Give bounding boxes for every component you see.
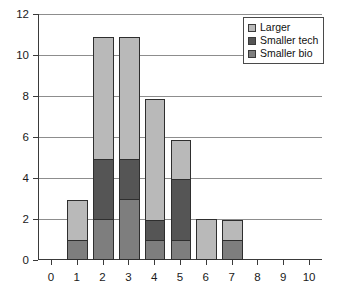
bar-segment-tech-4 bbox=[145, 220, 166, 241]
chart-legend: LargerSmaller techSmaller bio bbox=[243, 17, 324, 64]
bar-segment-bio-5 bbox=[171, 240, 192, 261]
y-tick-label-10: 10 bbox=[0, 50, 29, 62]
x-tick-2 bbox=[103, 260, 104, 265]
x-tick-label-2: 2 bbox=[99, 272, 105, 284]
y-tick-label-4: 4 bbox=[0, 173, 29, 185]
bar-group-5 bbox=[171, 136, 192, 259]
x-tick-7 bbox=[232, 260, 233, 265]
y-tick-label-2: 2 bbox=[0, 214, 29, 226]
y-tick-label-12: 12 bbox=[0, 9, 29, 21]
x-tick-8 bbox=[257, 260, 258, 265]
x-tick-10 bbox=[309, 260, 310, 265]
bar-group-1 bbox=[67, 198, 88, 260]
legend-swatch-bio bbox=[248, 50, 256, 58]
x-tick-label-6: 6 bbox=[203, 272, 209, 284]
bar-segment-bio-7 bbox=[222, 240, 243, 261]
bar-segment-larger-2 bbox=[93, 37, 114, 160]
x-tick-label-8: 8 bbox=[254, 272, 260, 284]
bar-segment-bio-4 bbox=[145, 240, 166, 261]
stacked-bar-chart: 024681012 012345678910 LargerSmaller tec… bbox=[0, 0, 338, 296]
bar-segment-larger-1 bbox=[67, 200, 88, 241]
bar-segment-larger-6 bbox=[196, 219, 217, 260]
bar-segment-larger-3 bbox=[119, 37, 140, 160]
y-tick-10 bbox=[33, 55, 38, 56]
bar-segment-tech-5 bbox=[171, 179, 192, 241]
bar-segment-bio-1 bbox=[67, 240, 88, 261]
bar-segment-bio-3 bbox=[119, 199, 140, 261]
x-tick-label-7: 7 bbox=[228, 272, 234, 284]
legend-label-tech: Smaller tech bbox=[260, 35, 318, 46]
y-tick-8 bbox=[33, 96, 38, 97]
x-tick-1 bbox=[77, 260, 78, 265]
y-tick-12 bbox=[33, 14, 38, 15]
y-tick-6 bbox=[33, 137, 38, 138]
bar-group-6 bbox=[196, 218, 217, 259]
y-tick-label-8: 8 bbox=[0, 91, 29, 103]
legend-label-bio: Smaller bio bbox=[260, 48, 313, 59]
y-tick-2 bbox=[33, 219, 38, 220]
x-tick-label-3: 3 bbox=[125, 272, 131, 284]
bar-segment-tech-2 bbox=[93, 159, 114, 221]
x-tick-label-1: 1 bbox=[74, 272, 80, 284]
bar-group-3 bbox=[119, 34, 140, 260]
bar-group-2 bbox=[93, 34, 114, 260]
legend-swatch-tech bbox=[248, 37, 256, 45]
bar-group-7 bbox=[222, 218, 243, 259]
y-tick-0 bbox=[33, 260, 38, 261]
x-tick-5 bbox=[180, 260, 181, 265]
y-tick-label-6: 6 bbox=[0, 132, 29, 144]
bar-segment-larger-7 bbox=[222, 220, 243, 241]
bar-group-4 bbox=[145, 95, 166, 259]
x-tick-4 bbox=[154, 260, 155, 265]
x-tick-label-10: 10 bbox=[303, 272, 316, 284]
x-tick-0 bbox=[51, 260, 52, 265]
x-tick-3 bbox=[128, 260, 129, 265]
legend-label-larger: Larger bbox=[260, 22, 290, 33]
legend-swatch-larger bbox=[248, 24, 256, 32]
x-tick-label-5: 5 bbox=[177, 272, 183, 284]
bar-segment-larger-5 bbox=[171, 140, 192, 181]
x-tick-label-0: 0 bbox=[48, 272, 54, 284]
legend-item-1: Smaller tech bbox=[248, 34, 318, 47]
bar-segment-tech-3 bbox=[119, 159, 140, 200]
bar-segment-larger-4 bbox=[145, 99, 166, 222]
y-tick-4 bbox=[33, 178, 38, 179]
x-tick-6 bbox=[206, 260, 207, 265]
y-tick-label-0: 0 bbox=[0, 255, 29, 267]
legend-item-2: Smaller bio bbox=[248, 47, 318, 60]
x-tick-9 bbox=[283, 260, 284, 265]
bar-segment-bio-2 bbox=[93, 219, 114, 260]
x-tick-label-9: 9 bbox=[280, 272, 286, 284]
legend-item-0: Larger bbox=[248, 21, 318, 34]
x-tick-label-4: 4 bbox=[151, 272, 157, 284]
